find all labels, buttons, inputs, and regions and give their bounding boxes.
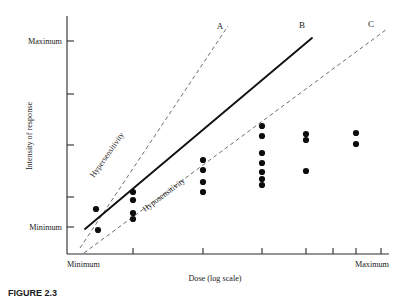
data-point <box>200 189 206 195</box>
y-axis-min-label: Minimum <box>29 223 62 232</box>
y-axis-ticks <box>67 41 74 227</box>
data-point <box>259 133 265 139</box>
data-point <box>353 141 359 147</box>
y-axis-title: Intensity of response <box>25 102 34 171</box>
data-point <box>130 197 136 203</box>
figure-panel: A B C Hypersensitivity Hyposensitivity M… <box>0 0 399 298</box>
data-point <box>130 210 136 216</box>
curve-label-a: A <box>217 21 224 31</box>
x-axis-max-label: Maximum <box>355 260 390 269</box>
data-point <box>259 160 265 166</box>
data-point <box>353 130 359 136</box>
scatter-points <box>93 123 359 233</box>
x-axis-ticks <box>133 248 381 254</box>
data-point <box>95 227 101 233</box>
figure-caption: FIGURE 2.3 <box>8 288 57 298</box>
curve-label-c: C <box>368 19 374 29</box>
data-point <box>259 150 265 156</box>
data-point <box>259 169 265 175</box>
y-axis-max-label: Maximum <box>28 37 63 46</box>
data-point <box>259 176 265 182</box>
data-point <box>303 168 309 174</box>
dose-response-chart: A B C Hypersensitivity Hyposensitivity M… <box>0 0 399 298</box>
data-point <box>200 157 206 163</box>
data-point <box>303 137 309 143</box>
data-point <box>93 206 99 212</box>
hypersensitivity-annotation: Hypersensitivity <box>88 131 126 179</box>
data-point <box>259 123 265 129</box>
curve-c-hyposensitivity <box>84 29 387 253</box>
curve-label-b: B <box>299 20 305 30</box>
data-point <box>130 216 136 222</box>
data-point <box>200 179 206 185</box>
data-point <box>303 131 309 137</box>
data-point <box>200 167 206 173</box>
data-point <box>259 182 265 188</box>
x-axis-title: Dose (log scale) <box>188 274 241 283</box>
data-point <box>130 189 136 195</box>
hyposensitivity-annotation: Hyposensitivity <box>141 176 187 214</box>
x-axis-min-label: Minimum <box>67 260 100 269</box>
